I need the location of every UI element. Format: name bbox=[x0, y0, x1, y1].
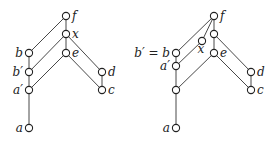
node-label-x: x bbox=[198, 42, 205, 56]
node-u2 bbox=[172, 86, 179, 93]
node-label-f: f bbox=[219, 9, 227, 23]
node-c bbox=[98, 86, 105, 93]
node-f bbox=[62, 12, 69, 19]
node-d bbox=[98, 68, 105, 75]
node-label-e: e bbox=[220, 46, 227, 60]
node-a bbox=[172, 124, 179, 131]
edge-e-ap bbox=[29, 53, 66, 90]
node-ap bbox=[172, 62, 179, 69]
edge-e-u2 bbox=[176, 53, 214, 90]
edge-x-bp bbox=[29, 34, 66, 72]
left-lattice-diagram: fxbeb′da′ca bbox=[13, 9, 116, 135]
node-label-f: f bbox=[71, 9, 79, 23]
node-a bbox=[25, 124, 32, 131]
node-d bbox=[247, 68, 254, 75]
node-label-b: b′ = b bbox=[134, 46, 170, 60]
node-label-a: a bbox=[163, 121, 170, 135]
node-label-ap: a′ bbox=[160, 59, 170, 73]
node-label-b: b bbox=[15, 46, 23, 60]
node-label-c: c bbox=[108, 83, 115, 97]
node-label-a: a bbox=[16, 121, 23, 135]
node-e bbox=[210, 49, 217, 56]
node-u1 bbox=[210, 30, 217, 37]
edge-f-b bbox=[29, 16, 66, 53]
node-label-ap: a′ bbox=[13, 83, 23, 97]
node-label-bp: b′ bbox=[13, 65, 24, 79]
node-label-d: d bbox=[108, 65, 116, 79]
node-f bbox=[210, 12, 217, 19]
lattice-diagrams: fxbeb′da′ca fxb′ = bea′dca bbox=[0, 0, 280, 145]
node-label-c: c bbox=[257, 83, 264, 97]
node-label-x: x bbox=[72, 27, 79, 41]
node-label-d: d bbox=[257, 65, 265, 79]
node-b bbox=[172, 49, 179, 56]
node-c bbox=[247, 86, 254, 93]
node-b bbox=[25, 49, 32, 56]
node-e bbox=[62, 49, 69, 56]
node-x bbox=[62, 30, 69, 37]
node-ap bbox=[25, 86, 32, 93]
node-bp bbox=[25, 68, 32, 75]
node-label-e: e bbox=[72, 46, 79, 60]
right-lattice-diagram: fxb′ = bea′dca bbox=[134, 9, 265, 135]
